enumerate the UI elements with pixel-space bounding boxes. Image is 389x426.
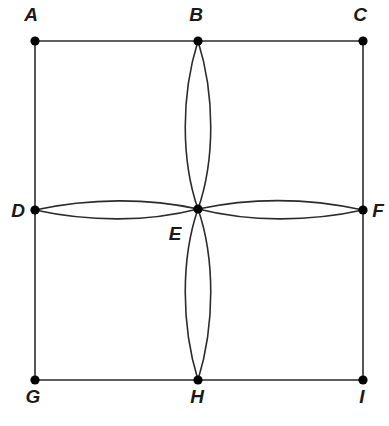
vertex-b <box>193 36 202 45</box>
graph-canvas: ABCDEFGHI <box>0 0 389 426</box>
edge-e-f-top <box>198 201 363 210</box>
edge-d-e-bottom <box>35 209 198 219</box>
vertex-e <box>193 204 202 213</box>
vertex-a <box>30 36 39 45</box>
edge-e-f-bottom <box>198 209 363 219</box>
edge-b-e-right <box>198 41 211 209</box>
vertex-label-g: G <box>26 386 41 407</box>
vertex-c <box>358 36 367 45</box>
edge-e-h-left <box>185 209 198 380</box>
vertex-label-b: B <box>189 4 203 25</box>
vertex-label-f: F <box>372 200 385 221</box>
vertex-label-i: I <box>359 386 365 407</box>
graph-diagram: ABCDEFGHI <box>0 0 389 426</box>
vertex-label-c: C <box>353 4 367 25</box>
vertex-f <box>358 205 367 214</box>
vertex-h <box>193 375 202 384</box>
vertex-g <box>30 375 39 384</box>
edge-b-e-left <box>185 41 198 209</box>
vertices-group <box>30 36 367 384</box>
vertex-d <box>30 205 39 214</box>
vertex-label-a: A <box>23 4 38 25</box>
vertex-label-e: E <box>169 223 183 244</box>
edge-d-e-top <box>35 201 198 210</box>
vertex-i <box>358 375 367 384</box>
vertex-label-h: H <box>190 386 205 407</box>
edge-e-h-right <box>198 209 211 380</box>
vertex-label-d: D <box>11 200 25 221</box>
